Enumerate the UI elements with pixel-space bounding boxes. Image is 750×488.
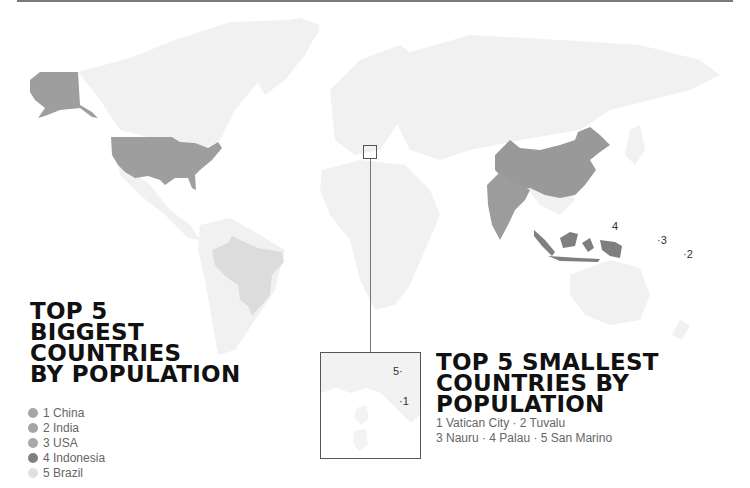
legend-item-brazil: 5 Brazil xyxy=(28,465,105,480)
legend-item-india: 2 India xyxy=(28,420,105,435)
legend-item-usa: 3 USA xyxy=(28,435,105,450)
inset-map-italy: 5· ·1 xyxy=(320,352,421,459)
inset-marker-box xyxy=(363,145,377,159)
legend-label: 3 USA xyxy=(43,436,78,450)
biggest-title: TOP 5 BIGGEST COUNTRIES BY POPULATION xyxy=(30,301,241,385)
label-vatican-city: ·1 xyxy=(399,395,409,407)
label-palau: 4 xyxy=(612,220,618,232)
legend-label: 5 Brazil xyxy=(43,466,83,480)
country-indonesia xyxy=(534,230,622,262)
label-tuvalu: ·2 xyxy=(683,248,693,260)
legend-item-indonesia: 4 Indonesia xyxy=(28,450,105,465)
legend-dot-icon xyxy=(28,423,38,433)
legend-label: 1 China xyxy=(43,406,84,420)
smallest-title: TOP 5 SMALLEST COUNTRIES BY POPULATION xyxy=(436,352,659,415)
legend-dot-icon xyxy=(28,453,38,463)
label-san-marino: 5· xyxy=(393,365,403,377)
biggest-legend: 1 China 2 India 3 USA 4 Indonesia 5 Braz… xyxy=(28,405,105,480)
label-nauru: ·3 xyxy=(657,234,667,246)
leader-line xyxy=(370,159,371,352)
legend-dot-icon xyxy=(28,408,38,418)
legend-label: 2 India xyxy=(43,421,79,435)
smallest-list-line: 3 Nauru · 4 Palau · 5 San Marino xyxy=(436,431,612,446)
legend-dot-icon xyxy=(28,438,38,448)
smallest-list: 1 Vatican City · 2 Tuvalu 3 Nauru · 4 Pa… xyxy=(436,416,612,446)
smallest-title-line: POPULATION xyxy=(436,394,659,415)
biggest-title-line: BY POPULATION xyxy=(30,364,241,385)
legend-label: 4 Indonesia xyxy=(43,451,105,465)
legend-dot-icon xyxy=(28,468,38,478)
legend-item-china: 1 China xyxy=(28,405,105,420)
smallest-list-line: 1 Vatican City · 2 Tuvalu xyxy=(436,416,612,431)
